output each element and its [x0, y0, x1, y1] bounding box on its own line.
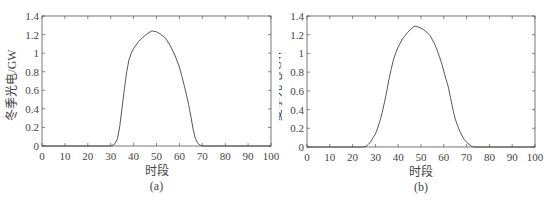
x-tick-label: 30 — [370, 151, 382, 163]
series-line — [307, 26, 535, 147]
x-tick-label: 10 — [324, 151, 336, 163]
y-tick-label: 0.6 — [290, 85, 304, 97]
y-tick-label: 1.2 — [25, 29, 39, 41]
y-tick-label: 0.8 — [25, 66, 39, 78]
x-tick-label: 50 — [416, 151, 428, 163]
x-tick-label: 70 — [461, 151, 473, 163]
x-tick-label: 80 — [220, 150, 232, 162]
y-tick-label: 0.4 — [290, 104, 304, 116]
panel-label: (a) — [150, 179, 163, 193]
y-tick-label: 0.2 — [25, 121, 39, 133]
x-axis-label: 时段 — [145, 163, 169, 178]
x-tick-label: 20 — [82, 150, 94, 162]
x-tick-label: 70 — [197, 150, 209, 162]
y-axis-label: 夏季光电/GW — [279, 49, 284, 121]
chart-b: 010203040506070809010000.20.40.60.811.21… — [279, 0, 559, 200]
plot-area-frame — [307, 16, 535, 147]
y-tick-label: 1.4 — [25, 10, 39, 22]
x-axis-label: 时段 — [409, 164, 433, 179]
y-tick-label: 1.2 — [290, 29, 304, 41]
x-tick-label: 20 — [347, 151, 359, 163]
x-tick-label: 60 — [174, 150, 186, 162]
y-tick-label: 0.8 — [290, 66, 304, 78]
x-tick-label: 100 — [527, 151, 544, 163]
y-tick-label: 0.6 — [25, 84, 39, 96]
y-tick-label: 0 — [299, 141, 305, 153]
x-tick-label: 60 — [438, 151, 450, 163]
x-tick-label: 40 — [128, 150, 140, 162]
series-line — [42, 31, 271, 146]
x-tick-label: 100 — [263, 150, 280, 162]
y-axis-label: 冬季光电/GW — [4, 49, 19, 121]
x-tick-label: 80 — [484, 151, 496, 163]
x-tick-label: 90 — [507, 151, 519, 163]
x-tick-label: 40 — [393, 151, 405, 163]
y-tick-label: 1 — [34, 47, 40, 59]
x-tick-label: 50 — [151, 150, 163, 162]
chart-panel-b: 010203040506070809010000.20.40.60.811.21… — [279, 0, 559, 200]
x-tick-label: 0 — [39, 150, 45, 162]
chart-a: 010203040506070809010000.20.40.60.811.21… — [0, 0, 280, 200]
x-tick-label: 30 — [105, 150, 117, 162]
y-tick-label: 1 — [299, 47, 305, 59]
y-tick-label: 0 — [34, 140, 40, 152]
x-tick-label: 0 — [304, 151, 310, 163]
plot-area-frame — [42, 16, 271, 146]
x-tick-label: 10 — [59, 150, 71, 162]
chart-panel-a: 010203040506070809010000.20.40.60.811.21… — [0, 0, 280, 200]
x-tick-label: 90 — [243, 150, 255, 162]
y-tick-label: 0.2 — [290, 122, 304, 134]
panel-label: (b) — [414, 180, 428, 194]
y-tick-label: 0.4 — [25, 103, 39, 115]
y-tick-label: 1.4 — [290, 10, 304, 22]
